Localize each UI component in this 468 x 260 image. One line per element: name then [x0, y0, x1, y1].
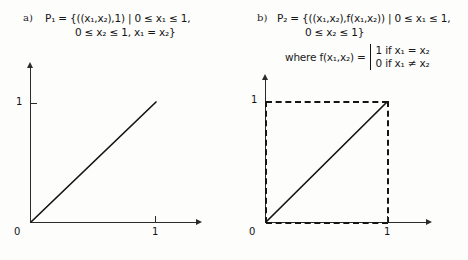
panel-b-x-tick-label: 1 — [384, 226, 390, 237]
piecewise-case-2: 0 if x₁ ≠ x₂ — [376, 57, 430, 70]
piecewise-brace — [370, 44, 371, 70]
panel-b-origin-label: 0 — [249, 226, 255, 237]
panel-a-y-tick-label: 1 — [16, 96, 22, 107]
panel-b-formula-line-1: P₂ = {((x₁,x₂),f(x₁,x₂)) | 0 ≤ x₁ ≤ 1, — [277, 11, 450, 25]
panel-b-y-tick-label: 1 — [251, 94, 257, 105]
panel-b-x-axis-arrow — [426, 219, 432, 225]
panel-b-piecewise-definition: where f(x₁,x₂) = 1 if x₁ = x₂ 0 if x₁ ≠ … — [285, 44, 430, 70]
panel-a-label: a) — [23, 12, 33, 23]
panel-b-where-label: where f(x₁,x₂) = — [285, 51, 366, 63]
panel-a-origin-label: 0 — [14, 226, 20, 237]
panel-b-formula-line-2: 0 ≤ x₂ ≤ 1} — [305, 25, 364, 39]
figure-root: a) P₁ = {((x₁,x₂),1) | 0 ≤ x₁ ≤ 1, 0 ≤ x… — [0, 0, 468, 260]
panel-a-diagonal-line — [30, 101, 160, 225]
panel-a-formula-line-1: P₁ = {((x₁,x₂),1) | 0 ≤ x₁ ≤ 1, — [45, 11, 190, 25]
panel-b-diagonal-line — [265, 101, 391, 225]
panel-a-x-axis-arrow — [196, 219, 202, 225]
piecewise-case-1: 1 if x₁ = x₂ — [376, 44, 430, 57]
panel-a-x-tick-label: 1 — [152, 226, 158, 237]
panel-b-label: b) — [257, 12, 267, 23]
piecewise-cases: 1 if x₁ = x₂ 0 if x₁ ≠ x₂ — [376, 44, 430, 70]
panel-a-formula-line-2: 0 ≤ x₂ ≤ 1, x₁ = x₂} — [75, 25, 175, 39]
